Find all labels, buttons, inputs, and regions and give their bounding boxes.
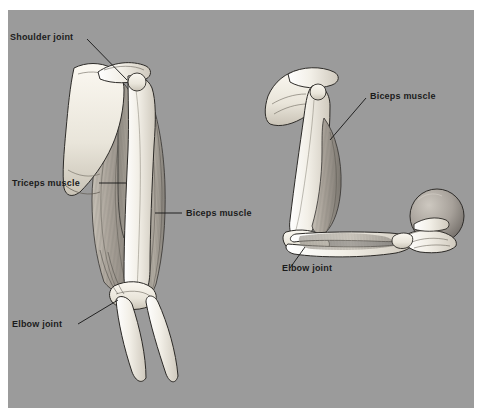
illustration-page: Shoulder joint Triceps muscle Biceps mus… [0, 0, 480, 408]
wrist-bones [392, 233, 413, 249]
label-biceps-muscle-right: Biceps muscle [370, 92, 436, 101]
anatomy-figure [0, 0, 480, 408]
ulna-bone [116, 297, 146, 382]
label-triceps-muscle: Triceps muscle [12, 179, 80, 188]
clavicle-bone-right [288, 68, 338, 88]
label-biceps-muscle-left: Biceps muscle [186, 209, 252, 218]
label-elbow-joint-left: Elbow joint [12, 320, 62, 329]
left-arm-figure [63, 63, 178, 382]
leader-elbow-left [78, 300, 118, 324]
leader-biceps-right [330, 98, 366, 140]
radius-bone [146, 296, 178, 382]
label-elbow-joint-right: Elbow joint [282, 264, 332, 273]
label-shoulder-joint: Shoulder joint [10, 33, 73, 42]
